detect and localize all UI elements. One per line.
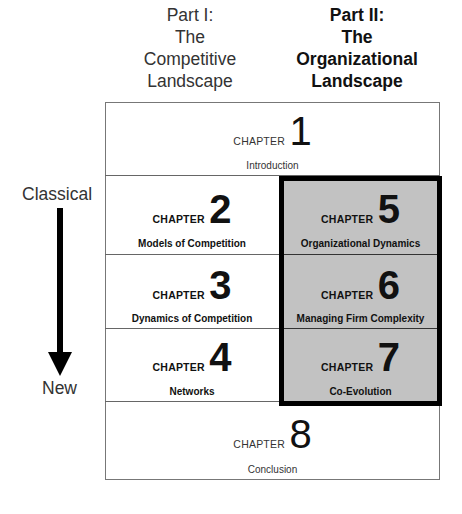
chapter-title: Managing Firm Complexity bbox=[284, 313, 437, 324]
part-2-heading: Part II: The Organizational Landscape bbox=[272, 4, 442, 92]
chapter-word: CHAPTER bbox=[153, 361, 205, 373]
chapter-number: 4 bbox=[209, 335, 231, 379]
chapter-title: Dynamics of Competition bbox=[105, 313, 279, 324]
timeline-arrow-shaft bbox=[57, 208, 63, 354]
chapter-number: 1 bbox=[289, 109, 311, 153]
arrow-down-icon bbox=[48, 352, 72, 376]
chapter-word: CHAPTER bbox=[153, 213, 205, 225]
chapter-word: CHAPTER bbox=[321, 361, 373, 373]
chapter-title: Introduction bbox=[105, 160, 440, 171]
chapter-word: CHAPTER bbox=[321, 213, 373, 225]
chapter-number: 6 bbox=[378, 263, 400, 307]
chapter-2-cell: CHAPTER 2 Models of Competition bbox=[105, 176, 279, 254]
chapter-number: 7 bbox=[378, 335, 400, 379]
part-2-heading-line: Landscape bbox=[272, 70, 442, 92]
chapter-title: Organizational Dynamics bbox=[284, 238, 437, 249]
chapter-number: 2 bbox=[209, 187, 231, 231]
part-1-heading-line: Part I: bbox=[105, 4, 275, 26]
chapter-6-cell: CHAPTER 6 Managing Firm Complexity bbox=[284, 255, 437, 328]
chapter-4-cell: CHAPTER 4 Networks bbox=[105, 329, 279, 401]
chapter-title: Networks bbox=[105, 386, 279, 397]
chapter-word: CHAPTER bbox=[153, 289, 205, 301]
chapter-5-cell: CHAPTER 5 Organizational Dynamics bbox=[284, 181, 437, 254]
chapter-word: CHAPTER bbox=[233, 135, 285, 147]
part-1-heading-line: Landscape bbox=[105, 70, 275, 92]
chapter-number: 3 bbox=[209, 263, 231, 307]
chapter-3-cell: CHAPTER 3 Dynamics of Competition bbox=[105, 255, 279, 328]
chapter-word: CHAPTER bbox=[321, 289, 373, 301]
part-2-heading-line: Part II: bbox=[272, 4, 442, 26]
chapter-title: Models of Competition bbox=[105, 238, 279, 249]
chapter-word: CHAPTER bbox=[233, 438, 285, 450]
timeline-start-label: Classical bbox=[22, 184, 92, 205]
chapter-number: 8 bbox=[289, 412, 311, 456]
part-1-heading-line: Competitive bbox=[105, 48, 275, 70]
chapter-title: Conclusion bbox=[105, 464, 440, 475]
part-2-heading-line: Organizational bbox=[272, 48, 442, 70]
timeline-end-label: New bbox=[42, 378, 77, 399]
part-2-heading-line: The bbox=[272, 26, 442, 48]
chapter-number: 5 bbox=[378, 187, 400, 231]
chapter-1-cell: CHAPTER 1 Introduction bbox=[105, 103, 440, 175]
part-1-heading: Part I: The Competitive Landscape bbox=[105, 4, 275, 92]
chapter-title: Co-Evolution bbox=[284, 386, 437, 397]
chapter-8-cell: CHAPTER 8 Conclusion bbox=[105, 407, 440, 479]
part-1-heading-line: The bbox=[105, 26, 275, 48]
chapter-7-cell: CHAPTER 7 Co-Evolution bbox=[284, 329, 437, 401]
